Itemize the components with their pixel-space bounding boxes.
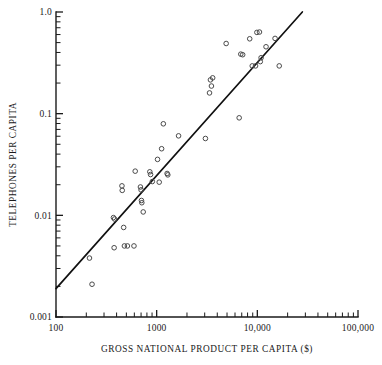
data-point: [121, 225, 126, 230]
data-point: [132, 244, 137, 249]
data-point: [141, 210, 146, 215]
y-tick-label: 1.0: [40, 7, 53, 17]
data-point: [247, 37, 252, 42]
x-tick-label: 100,000: [342, 323, 374, 333]
y-tick-label: 0.1: [40, 109, 53, 119]
data-point: [155, 157, 160, 162]
data-point: [161, 122, 166, 127]
data-point: [203, 136, 208, 141]
x-tick-label: 1000: [147, 323, 167, 333]
data-point: [157, 180, 162, 185]
data-point: [87, 256, 92, 261]
telephones-vs-gnp-scatter-chart: 1.00.10.010.001 100100010,000100,000 GRO…: [0, 0, 382, 365]
x-tick-label: 100: [49, 323, 64, 333]
data-point: [273, 36, 278, 41]
y-axis-title: TELEPHONES PER CAPITA: [8, 102, 18, 227]
data-point: [112, 245, 117, 250]
y-tick-label: 0.001: [30, 312, 52, 322]
data-point: [176, 134, 181, 139]
data-point: [159, 146, 164, 151]
x-axis-title: GROSS NATIONAL PRODUCT PER CAPITA ($): [101, 344, 313, 355]
data-point: [277, 64, 282, 69]
y-axis-tick-labels: 1.00.10.010.001: [30, 7, 52, 322]
y-axis-ticks: [56, 12, 63, 317]
data-point: [125, 244, 130, 249]
data-point: [90, 282, 95, 287]
data-point: [209, 84, 214, 89]
data-point: [139, 188, 144, 193]
data-point: [148, 172, 153, 177]
x-tick-label: 10,000: [244, 323, 271, 333]
x-axis-tick-labels: 100100010,000100,000: [49, 323, 375, 333]
data-point: [207, 91, 212, 96]
chart-canvas: 1.00.10.010.001 100100010,000100,000 GRO…: [0, 0, 382, 365]
data-point: [120, 188, 125, 193]
data-point: [224, 41, 229, 46]
y-tick-label: 0.01: [35, 211, 52, 221]
data-point: [237, 116, 242, 121]
x-axis-ticks: [56, 310, 358, 317]
data-point: [133, 169, 138, 174]
data-points-group: [87, 30, 281, 287]
data-point: [120, 184, 125, 189]
data-point: [264, 44, 269, 49]
regression-fit-line: [56, 12, 302, 289]
